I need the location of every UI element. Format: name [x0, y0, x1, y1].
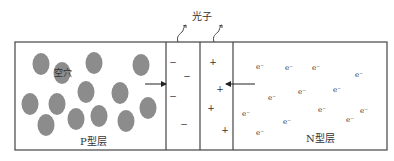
- negative-charge: −: [169, 57, 177, 67]
- negative-charge: −: [180, 119, 188, 129]
- p-layer-label: P型层: [80, 135, 107, 147]
- hole-circle: [140, 97, 157, 119]
- electron: e⁻: [256, 129, 264, 137]
- electrons-group: e⁻e⁻e⁻e⁻e⁻e⁻e⁻e⁻e⁻e⁻e⁻e⁻e⁻: [242, 63, 368, 137]
- hole-circle: [78, 81, 95, 103]
- photon-label: 光子: [192, 10, 212, 22]
- electron: e⁻: [333, 86, 341, 94]
- electron: e⁻: [318, 106, 326, 114]
- photon-wave-icon: [177, 25, 186, 42]
- hole-circle: [38, 114, 55, 136]
- pn-junction-diagram: 光子 空穴 P型层 −−−− ++++ e⁻e⁻e⁻e⁻e⁻e⁻e⁻e⁻e⁻e⁻…: [0, 0, 394, 161]
- electron: e⁻: [285, 64, 293, 72]
- positive-charge: +: [216, 84, 224, 94]
- hole-circle: [68, 108, 85, 130]
- hole-circle: [118, 110, 135, 132]
- positive-charge: +: [209, 57, 217, 67]
- positive-charge: +: [207, 103, 215, 113]
- electron: e⁻: [242, 110, 250, 118]
- hole-circle: [49, 93, 66, 115]
- electron: e⁻: [346, 116, 354, 124]
- electron: e⁻: [355, 71, 363, 79]
- electron: e⁻: [312, 64, 320, 72]
- electron: e⁻: [283, 118, 291, 126]
- n-layer-label: N型层: [306, 132, 335, 144]
- electron: e⁻: [268, 94, 276, 102]
- negative-ions-group: −−−−: [169, 57, 191, 129]
- hole-circle: [33, 53, 50, 75]
- positive-ions-group: ++++: [207, 57, 229, 135]
- positive-charge: +: [221, 125, 229, 135]
- negative-charge: −: [183, 71, 191, 81]
- hole-circle: [91, 105, 108, 127]
- hole-label: 空穴: [54, 67, 72, 78]
- hole-circle: [133, 54, 150, 76]
- hole-circle: [112, 82, 129, 104]
- electron: e⁻: [360, 107, 368, 115]
- electron: e⁻: [256, 63, 264, 71]
- hole-circle: [86, 52, 103, 74]
- electron: e⁻: [298, 88, 306, 96]
- hole-circle: [22, 93, 39, 115]
- negative-charge: −: [169, 91, 177, 101]
- holes-group: [22, 52, 157, 136]
- photon-wave-icon: [213, 25, 222, 42]
